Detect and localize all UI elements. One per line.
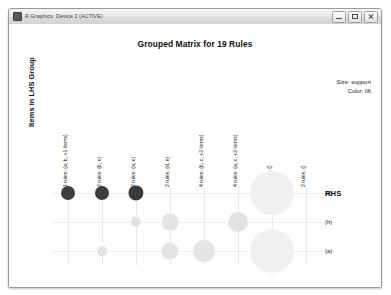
bubble-marker xyxy=(250,229,294,273)
x-tick-label: 2 rules: {b, e} xyxy=(96,157,102,187)
x-tick-label: 2 rules: {} xyxy=(300,165,306,187)
r-graphics-icon xyxy=(13,12,22,21)
rhs-row-label: {a} xyxy=(325,248,332,254)
legend: Size: support Color: lift xyxy=(337,78,371,96)
page-title: Grouped Matrix for 19 Rules xyxy=(9,39,381,49)
grid-line-vertical xyxy=(306,187,307,265)
maximize-button[interactable] xyxy=(348,11,362,23)
x-tick-label: 2 rules: {a, e} xyxy=(130,157,136,187)
minimize-icon xyxy=(336,18,342,19)
y-axis-label: Items in LHS Group xyxy=(27,45,39,127)
minimize-button[interactable] xyxy=(332,11,346,23)
bubble-marker xyxy=(193,240,215,262)
r-graphics-window: R Graphics: Device 2 (ACTIVE) Grouped Ma… xyxy=(8,8,382,288)
window-controls xyxy=(332,11,381,23)
x-axis-tick-labels: 1 rules: {a, b, +1 items}2 rules: {b, e}… xyxy=(51,83,323,187)
x-tick-label: 4 rules: {b, c, +2 items} xyxy=(198,135,204,187)
bubble-matrix xyxy=(51,187,323,265)
maximize-icon xyxy=(352,14,358,19)
window-titlebar[interactable]: R Graphics: Device 2 (ACTIVE) xyxy=(9,9,381,25)
legend-size: Size: support xyxy=(337,78,371,87)
grid-line-horizontal xyxy=(51,222,323,223)
close-icon xyxy=(368,14,374,20)
bubble-marker xyxy=(95,186,109,200)
bubble-marker xyxy=(97,246,107,256)
bubble-marker xyxy=(131,217,141,227)
rhs-row-label: {d} xyxy=(325,190,332,196)
bubble-marker xyxy=(61,186,75,200)
bubble-marker xyxy=(162,214,179,231)
bubble-marker xyxy=(228,212,248,232)
close-button[interactable] xyxy=(364,11,378,23)
window-title: R Graphics: Device 2 (ACTIVE) xyxy=(25,14,103,19)
plot-canvas: Grouped Matrix for 19 Rules Size: suppor… xyxy=(9,24,381,288)
bubble-marker xyxy=(128,185,143,200)
bubble-marker xyxy=(250,171,294,215)
x-tick-label: 2 rules: {d, e} xyxy=(164,157,170,187)
x-tick-label: 1 rules: {a, b, +1 items} xyxy=(62,134,68,187)
legend-color: Color: lift xyxy=(337,87,371,96)
rhs-row-label: {h} xyxy=(325,219,332,225)
titlebar-left: R Graphics: Device 2 (ACTIVE) xyxy=(9,12,103,21)
desktop-background: R Graphics: Device 2 (ACTIVE) Grouped Ma… xyxy=(0,0,391,295)
bubble-marker xyxy=(161,242,178,259)
x-tick-label: 4 rules: {a, c, +2 items} xyxy=(232,135,238,187)
